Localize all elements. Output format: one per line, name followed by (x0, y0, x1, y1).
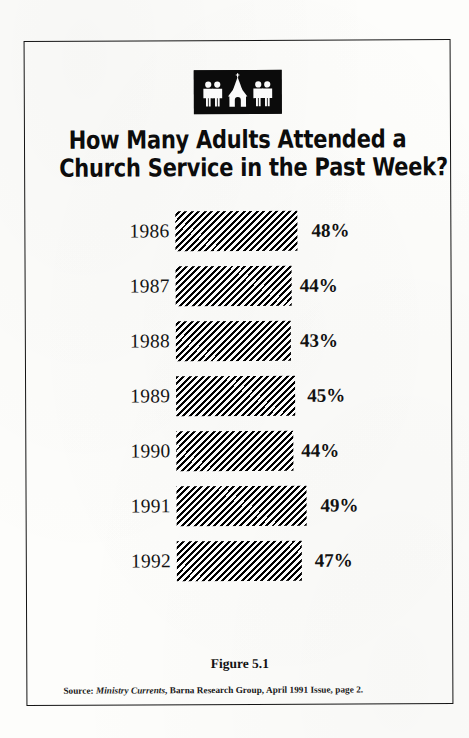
bar-fill (176, 320, 291, 361)
bar-track (176, 265, 292, 306)
figure-border-frame: How Many Adults Attended a Church Servic… (24, 39, 454, 706)
bar-track (176, 320, 291, 361)
bar-track (176, 430, 293, 471)
bar-fill (176, 430, 293, 471)
bar-category-label: 1989 (26, 385, 170, 408)
bar-fill (177, 540, 302, 581)
bar-row: 1992 47% (27, 532, 452, 589)
bar-value-label: 47% (315, 549, 353, 571)
bar-fill (176, 375, 295, 416)
source-rest: , Barna Research Group, April 1991 Issue… (165, 684, 363, 695)
bar-value-label: 44% (300, 274, 338, 296)
figure-caption: Figure 5.1 (27, 655, 452, 673)
bar-category-label: 1987 (26, 275, 170, 298)
bar-fill (175, 210, 297, 251)
bar-category-label: 1986 (25, 220, 169, 243)
bar-chart: 1986 48% 1987 44% 1988 43% (25, 202, 452, 589)
bar-row: 1989 45% (26, 367, 451, 424)
bar-row: 1990 44% (26, 422, 451, 479)
bar-category-label: 1990 (26, 440, 170, 463)
bar-category-label: 1992 (27, 550, 171, 573)
bar-track (177, 540, 302, 581)
bar-fill (176, 265, 292, 306)
bar-row: 1986 48% (25, 202, 450, 259)
bar-value-label: 49% (321, 494, 359, 516)
bar-category-label: 1988 (26, 330, 170, 353)
bar-track (176, 375, 295, 416)
bar-track (176, 485, 306, 526)
bar-value-label: 45% (307, 384, 345, 406)
bar-value-label: 48% (311, 219, 349, 241)
figure-source-note: Source: Ministry Currents, Barna Researc… (63, 684, 434, 696)
chart-title: How Many Adults Attended a Church Servic… (59, 125, 416, 183)
bar-track (175, 210, 297, 251)
chart-title-line-1: How Many Adults Attended a (59, 125, 416, 155)
bar-category-label: 1991 (27, 495, 171, 518)
bar-row: 1991 49% (26, 477, 451, 534)
bar-row: 1987 44% (26, 257, 451, 314)
source-prefix: Source: (63, 686, 96, 696)
bar-fill (176, 485, 306, 526)
scanned-page: How Many Adults Attended a Church Servic… (0, 0, 469, 738)
bar-row: 1988 43% (26, 312, 451, 369)
source-publication: Ministry Currents (96, 685, 165, 695)
chart-title-line-2: Church Service in the Past Week? (59, 153, 416, 183)
bar-value-label: 43% (300, 329, 338, 351)
bar-value-label: 44% (301, 439, 339, 461)
church-and-people-icon (193, 70, 281, 114)
